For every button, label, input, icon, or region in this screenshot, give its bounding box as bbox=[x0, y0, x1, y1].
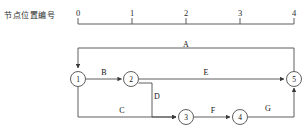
axis-caption: 节点位置编号 bbox=[4, 9, 56, 20]
activity-arrow-c bbox=[78, 87, 176, 118]
node-circle-1[interactable] bbox=[71, 72, 86, 87]
activity-label-a: A bbox=[183, 40, 189, 49]
activity-label-g: G bbox=[265, 104, 271, 113]
diagram-canvas: 节点位置编号 0 1 2 3 4 1 2 3 4 5 A B C D E F G bbox=[0, 0, 308, 130]
node-circle-3[interactable] bbox=[179, 110, 194, 125]
activity-label-f: F bbox=[211, 106, 215, 115]
axis-tick-label-4: 4 bbox=[292, 8, 296, 18]
axis-tick-label-2: 2 bbox=[184, 8, 188, 18]
axis-tick-label-3: 3 bbox=[238, 8, 242, 18]
activity-label-e: E bbox=[204, 68, 209, 77]
axis-tick-label-1: 1 bbox=[130, 8, 134, 18]
node-circle-2[interactable] bbox=[124, 72, 139, 87]
node-circle-5[interactable] bbox=[287, 72, 302, 87]
scale-axis bbox=[78, 18, 294, 24]
activity-label-c: C bbox=[119, 106, 124, 115]
activity-arrow-g bbox=[248, 88, 295, 117]
activity-label-d: D bbox=[154, 92, 160, 101]
axis-tick-label-0: 0 bbox=[76, 8, 80, 18]
activity-label-b: B bbox=[101, 68, 106, 77]
node-circle-4[interactable] bbox=[233, 110, 248, 125]
activity-arrow-a bbox=[78, 48, 294, 72]
